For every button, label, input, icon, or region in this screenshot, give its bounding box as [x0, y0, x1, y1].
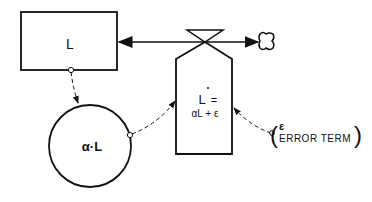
auxiliary-tap-point — [127, 132, 132, 137]
info-link-aux-to-rate — [132, 101, 175, 134]
error-label: ERROR TERM — [279, 133, 351, 144]
info-link-stock-to-aux — [71, 72, 78, 103]
derivative-dot — [207, 87, 209, 89]
stock-box-L: L — [21, 12, 117, 73]
stock-tap-point — [68, 67, 73, 72]
rate-equals: = — [211, 94, 217, 106]
valve-icon — [187, 30, 223, 42]
auxiliary-label: α·L — [82, 139, 102, 154]
error-open-paren: ( — [270, 121, 278, 148]
error-symbol: ε — [279, 120, 285, 132]
stock-label: L — [66, 36, 74, 52]
error-close-paren: ) — [354, 121, 362, 148]
rate-tank: L = αL + ε — [176, 42, 232, 154]
cloud-sink-icon — [259, 33, 274, 50]
stock-flow-diagram: L L = αL + ε α·L ( ε ERROR TERM ) — [0, 0, 372, 202]
rate-L-label: L — [198, 92, 205, 107]
auxiliary-circle: α·L — [49, 105, 133, 187]
error-term: ( ε ERROR TERM ) — [270, 120, 362, 148]
rate-equation: αL + ε — [192, 108, 219, 119]
info-link-error-to-rate — [234, 108, 271, 133]
